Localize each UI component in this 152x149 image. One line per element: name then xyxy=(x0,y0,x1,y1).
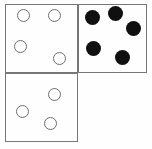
filled-dot xyxy=(126,21,141,36)
filled-dot xyxy=(85,10,100,25)
open-circle xyxy=(48,9,61,22)
filled-dot xyxy=(86,41,101,56)
open-circle xyxy=(44,117,57,130)
open-circle xyxy=(53,52,66,65)
top-left-panel xyxy=(5,4,78,73)
dot-panels-figure xyxy=(0,0,152,149)
open-circle xyxy=(48,88,61,101)
open-circle xyxy=(17,9,30,22)
open-circle xyxy=(14,40,27,53)
filled-dot xyxy=(108,6,123,21)
filled-dot xyxy=(115,50,130,65)
open-circle xyxy=(16,105,29,118)
